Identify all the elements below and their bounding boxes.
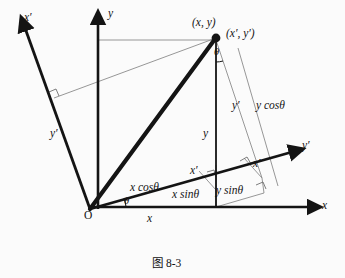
label-y-sin-theta: y sinθ xyxy=(216,185,243,197)
label-y-cos-theta: y cosθ xyxy=(256,100,285,112)
x-axis-label: x xyxy=(322,200,327,212)
point-xy-prime-label: (x′, y′) xyxy=(226,28,255,40)
label-x-axis-projection: x xyxy=(147,213,152,225)
theta-point-label: θ xyxy=(214,47,219,58)
label-y-prime-left: y′ xyxy=(50,128,58,140)
label-x-prime-right: x′ xyxy=(253,158,261,170)
right-angle-y-sin-theta xyxy=(256,182,266,189)
theta-arc-point xyxy=(216,61,223,62)
label-y-vertical: y xyxy=(203,128,208,140)
y-axis-label: y xyxy=(108,8,113,20)
label-x-sin-theta: x sinθ xyxy=(172,189,199,201)
figure-caption: 图 8-3 xyxy=(152,254,181,270)
main-axes xyxy=(25,22,310,209)
x-prime-axis-line xyxy=(25,28,90,209)
point-marker-xy xyxy=(212,34,221,43)
label-y-prime-right: y′ xyxy=(232,100,240,112)
y-prime-axis-label: y′ xyxy=(302,140,310,152)
x-prime-axis-label: x′ xyxy=(24,12,32,24)
figure-container: y x x′ y′ (x, y) (x′, y′) O θ θ x y y′ y… xyxy=(0,0,345,278)
origin-label: O xyxy=(84,210,92,222)
point-xy-label: (x, y) xyxy=(192,17,216,29)
label-x-prime-lower: x′ xyxy=(190,165,198,177)
construction-lines xyxy=(54,38,278,207)
theta-origin-label: θ xyxy=(124,196,129,207)
label-x-cos-theta: x cosθ xyxy=(130,182,159,194)
segment-y-sin-connector xyxy=(262,178,264,193)
